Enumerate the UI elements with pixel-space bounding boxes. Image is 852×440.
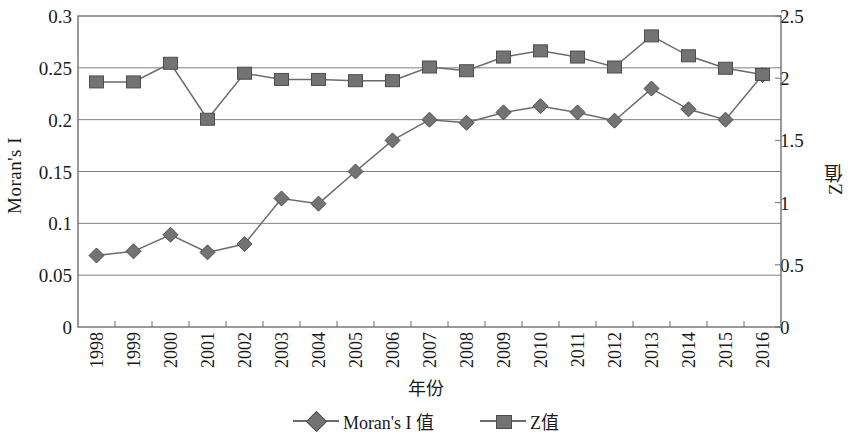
data-point-square (164, 57, 178, 69)
series-z-value (90, 30, 770, 125)
plot-area (0, 0, 852, 440)
data-point-square (756, 68, 770, 80)
legend-item-morans-i[interactable]: Moran's I 值 (293, 408, 434, 434)
legend-label-z-value: Z值 (530, 408, 559, 434)
data-point-square (127, 76, 141, 88)
data-point-square (349, 75, 363, 87)
data-point-square (275, 73, 289, 85)
data-point-square (534, 45, 548, 57)
data-point-diamond (422, 112, 437, 127)
legend-item-z-value[interactable]: Z值 (480, 408, 559, 434)
data-point-diamond (274, 191, 289, 206)
data-point-square (90, 76, 104, 88)
data-point-square (238, 67, 252, 79)
data-point-square (497, 51, 511, 63)
data-point-square (386, 75, 400, 87)
data-point-diamond (570, 105, 585, 120)
data-point-diamond (237, 237, 252, 252)
data-point-diamond (126, 244, 141, 259)
data-point-square (312, 73, 326, 85)
chart-legend: Moran's I 值 Z值 (0, 408, 852, 434)
data-point-diamond (533, 99, 548, 114)
series-morans-i (89, 68, 770, 263)
data-point-square (201, 113, 215, 125)
data-point-square (645, 30, 659, 42)
data-point-diamond (496, 105, 511, 120)
data-point-square (460, 65, 474, 77)
chart-figure: Moran's I Z值 年份 00.050.10.150.20.250.3 0… (0, 0, 852, 440)
data-point-square (423, 61, 437, 73)
data-point-square (608, 61, 622, 73)
data-point-diamond (89, 248, 104, 263)
data-point-diamond (681, 102, 696, 117)
data-point-diamond (459, 115, 474, 130)
data-point-square (571, 51, 585, 63)
diamond-marker-icon (293, 413, 339, 429)
data-point-diamond (200, 245, 215, 260)
legend-label-morans-i: Moran's I 值 (343, 408, 434, 434)
data-point-square (719, 62, 733, 74)
square-marker-icon (480, 413, 526, 429)
series-line (97, 36, 763, 119)
data-point-square (682, 50, 696, 62)
data-point-diamond (163, 227, 178, 242)
